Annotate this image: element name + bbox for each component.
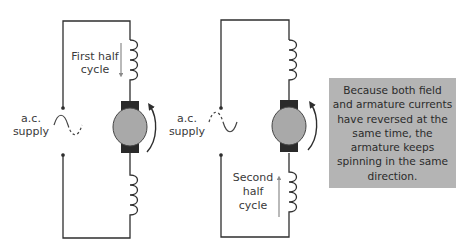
ac-wave-icon: [209, 112, 223, 122]
ac-wave-icon: [54, 115, 68, 125]
wire-top: [221, 20, 289, 108]
armature-second: [272, 100, 306, 152]
supply-text: supply: [10, 125, 52, 138]
half-cycle-text: cycle: [70, 63, 120, 76]
field-coil-bottom-icon: [289, 153, 297, 220]
rotation-arrow-icon: [147, 106, 156, 152]
supply-text: a.c.: [166, 112, 208, 125]
armature-first: [113, 101, 147, 153]
armature-icon: [272, 107, 306, 145]
field-coil-top-icon: [289, 40, 297, 101]
field-coil-bottom-icon: [130, 153, 138, 220]
supply-label-first: a.c. supply: [10, 112, 52, 138]
half-cycle-label-second: Second half cycle: [230, 171, 276, 213]
half-cycle-text: Second: [230, 171, 276, 185]
supply-text: supply: [166, 125, 208, 138]
armature-icon: [113, 108, 147, 146]
rotation-arrow-icon: [308, 104, 317, 150]
half-cycle-label-first: First half cycle: [70, 50, 120, 76]
half-cycle-text: cycle: [230, 199, 276, 213]
explanation-note: Because both field and armature currents…: [329, 78, 456, 188]
supply-label-second: a.c. supply: [166, 112, 208, 138]
field-coil-top-icon: [130, 40, 138, 101]
wire-bottom: [63, 155, 130, 238]
supply-text: a.c.: [10, 112, 52, 125]
half-cycle-text: half: [230, 185, 276, 199]
half-cycle-text: First half: [70, 50, 120, 63]
